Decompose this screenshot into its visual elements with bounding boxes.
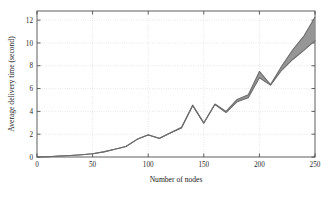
y-tick-label: 8 bbox=[29, 62, 33, 70]
y-axis-title: Average delivery time (second) bbox=[7, 36, 16, 132]
y-tick-label: 2 bbox=[29, 131, 33, 139]
x-tick-label: 200 bbox=[254, 161, 265, 169]
x-axis-title: Number of nodes bbox=[150, 175, 203, 184]
y-tick-label: 10 bbox=[26, 40, 34, 48]
y-tick-label: 12 bbox=[26, 17, 34, 25]
x-tick-label: 150 bbox=[198, 161, 209, 169]
chart-plot-svg: 050100150200250 024681012 Number of node… bbox=[0, 0, 331, 198]
y-tick-label: 6 bbox=[29, 85, 33, 93]
x-tick-label: 0 bbox=[35, 161, 39, 169]
y-tick-label: 0 bbox=[29, 154, 33, 162]
x-tick-label: 50 bbox=[89, 161, 97, 169]
figure-background bbox=[0, 0, 331, 198]
y-tick-label: 4 bbox=[29, 108, 33, 116]
x-tick-label: 100 bbox=[143, 161, 154, 169]
chart-figure: 050100150200250 024681012 Number of node… bbox=[0, 0, 331, 198]
x-tick-label: 250 bbox=[310, 161, 321, 169]
